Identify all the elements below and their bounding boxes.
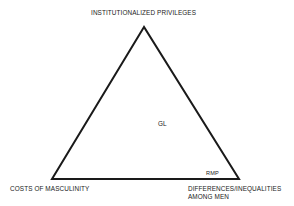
triangle-diagram: INSTITUTIONALIZED PRIVILEGES COSTS OF MA… xyxy=(0,0,294,206)
vertex-label-line2: AMONG MEN xyxy=(188,193,281,201)
vertex-label-institutionalized-privileges: INSTITUTIONALIZED PRIVILEGES xyxy=(91,9,196,17)
interior-label-rmp: RMP xyxy=(206,169,219,177)
triangle-shape xyxy=(0,0,294,206)
vertex-label-line1: DIFFERENCES/INEQUALITIES xyxy=(188,185,281,193)
vertex-label-differences-inequalities: DIFFERENCES/INEQUALITIES AMONG MEN xyxy=(188,185,281,201)
vertex-label-costs-of-masculinity: COSTS OF MASCULINITY xyxy=(10,185,89,193)
interior-label-gl: GL xyxy=(158,120,167,128)
